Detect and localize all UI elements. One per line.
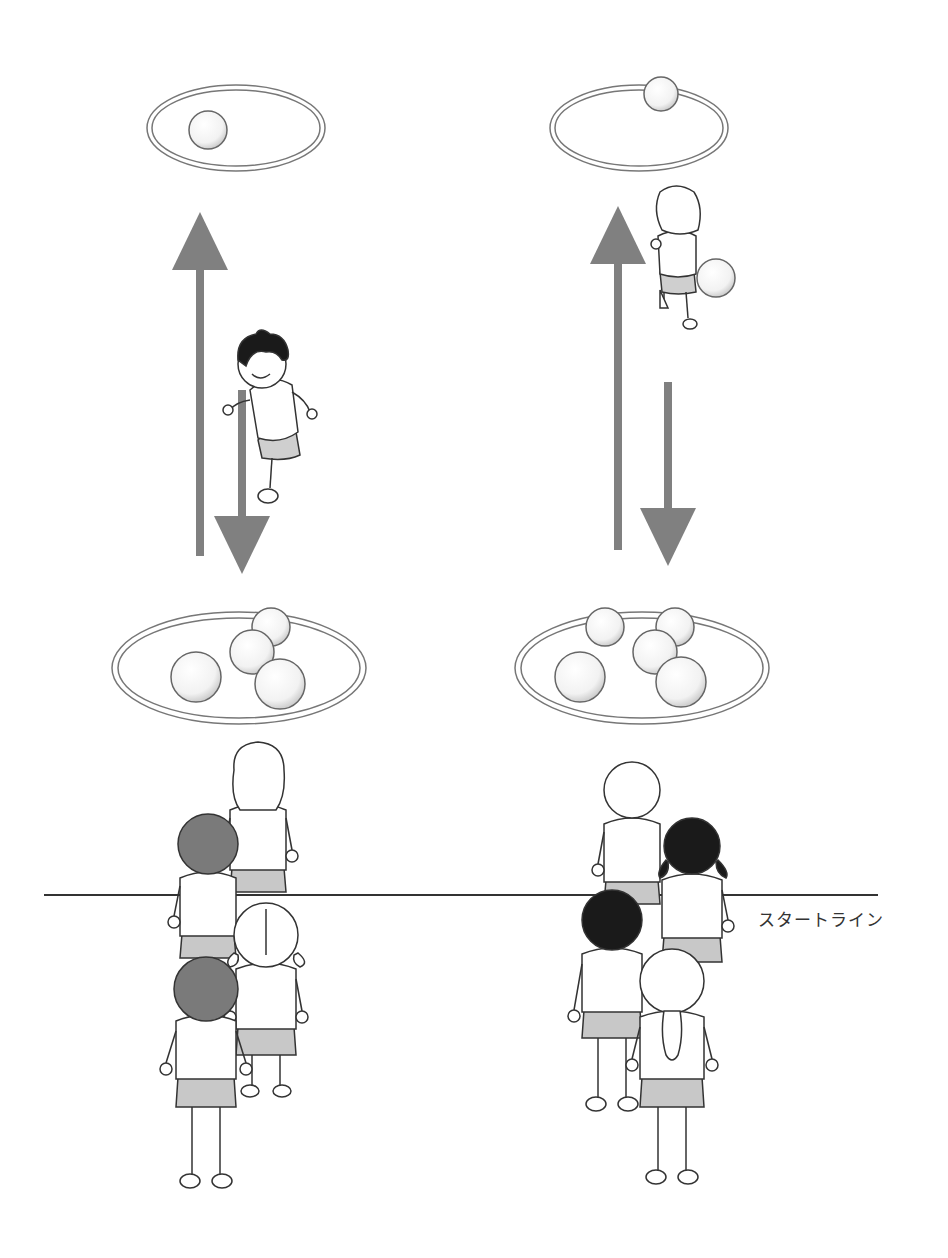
arrow-up-left	[172, 212, 228, 556]
ball	[586, 608, 624, 646]
ball	[171, 652, 221, 702]
arrow-up-right	[590, 206, 646, 550]
near-hoop-right	[515, 608, 769, 724]
queue-child	[592, 762, 660, 904]
ball	[189, 111, 227, 149]
start-line-label: スタートライン	[758, 906, 884, 931]
ball	[644, 77, 678, 111]
far-hoop-right	[550, 77, 728, 171]
left-queue	[160, 742, 308, 1188]
right-queue	[568, 762, 734, 1184]
runner-with-ball	[651, 186, 735, 329]
queue-child	[218, 742, 298, 892]
runner-boy	[223, 330, 317, 503]
near-hoop-left	[112, 608, 366, 724]
queue-child	[568, 890, 642, 1111]
queue-child	[659, 818, 734, 962]
ball	[555, 652, 605, 702]
ball	[255, 659, 305, 709]
ball	[697, 259, 735, 297]
left-lane	[112, 85, 366, 724]
far-hoop-left	[147, 85, 325, 171]
arrow-down-right	[640, 382, 696, 566]
queue-child	[626, 949, 718, 1184]
queue-child	[168, 814, 238, 958]
queue-child	[160, 957, 252, 1188]
relay-diagram	[0, 0, 948, 1258]
ball	[656, 657, 706, 707]
right-lane	[515, 77, 769, 724]
